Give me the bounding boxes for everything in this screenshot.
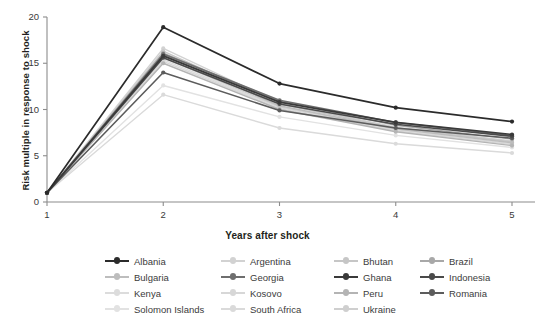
legend-swatch-icon xyxy=(334,255,358,267)
legend-label: Indonesia xyxy=(449,272,490,283)
series-line xyxy=(47,51,512,193)
series-indonesia xyxy=(45,56,514,195)
series-bulgaria xyxy=(45,53,514,195)
legend-row: BulgariaGeorgiaGhanaIndonesia xyxy=(105,269,535,285)
data-point xyxy=(277,100,281,104)
legend-item-argentina[interactable]: Argentina xyxy=(221,253,334,269)
y-tick-label: 0 xyxy=(13,196,39,207)
series-ghana xyxy=(45,54,514,195)
legend-label: Ukraine xyxy=(363,304,396,315)
legend-swatch-icon xyxy=(334,287,358,299)
data-point xyxy=(510,143,514,147)
legend-item-ghana[interactable]: Ghana xyxy=(334,269,420,285)
series-romania xyxy=(45,70,514,194)
y-tick-label: 10 xyxy=(13,104,39,115)
legend-label: Solomon Islands xyxy=(134,304,204,315)
y-tick-label: 5 xyxy=(13,150,39,161)
y-tick-label: 15 xyxy=(13,57,39,68)
data-point xyxy=(394,142,398,146)
data-point xyxy=(161,54,165,58)
legend-item-ukraine[interactable]: Ukraine xyxy=(334,301,420,317)
legend-label: Kenya xyxy=(134,288,161,299)
legend-item-indonesia[interactable]: Indonesia xyxy=(420,269,530,285)
legend-item-georgia[interactable]: Georgia xyxy=(221,269,334,285)
legend-item-kosovo[interactable]: Kosovo xyxy=(221,285,334,301)
legend-label: Georgia xyxy=(250,272,284,283)
legend-swatch-icon xyxy=(221,287,245,299)
series-line xyxy=(47,56,512,193)
series-line xyxy=(47,55,512,193)
legend-label: Peru xyxy=(363,288,383,299)
data-point xyxy=(394,126,398,130)
data-point xyxy=(161,83,165,87)
legend-label: Argentina xyxy=(250,256,291,267)
series-line xyxy=(47,53,512,193)
legend-swatch-icon xyxy=(105,255,129,267)
series-ukraine xyxy=(45,56,514,195)
legend-swatch-icon xyxy=(105,287,129,299)
legend-swatch-icon xyxy=(420,271,444,283)
data-point xyxy=(277,82,281,86)
data-point xyxy=(161,70,165,74)
data-point xyxy=(510,132,514,136)
data-point xyxy=(161,61,165,65)
legend-label: Brazil xyxy=(449,256,473,267)
legend-swatch-icon xyxy=(221,255,245,267)
series-argentina xyxy=(45,46,514,194)
legend-label: Bhutan xyxy=(363,256,393,267)
legend-swatch-icon xyxy=(420,287,444,299)
legend-label: South Africa xyxy=(250,304,301,315)
legend-swatch-icon xyxy=(420,255,444,267)
y-tick-label: 20 xyxy=(13,11,39,22)
legend-swatch-icon xyxy=(334,271,358,283)
legend-label: Ghana xyxy=(363,272,392,283)
legend-item-peru[interactable]: Peru xyxy=(334,285,420,301)
legend-label: Kosovo xyxy=(250,288,282,299)
legend-item-kenya[interactable]: Kenya xyxy=(105,285,221,301)
legend-item-romania[interactable]: Romania xyxy=(420,285,530,301)
legend-swatch-icon xyxy=(221,271,245,283)
data-point xyxy=(277,115,281,119)
legend-swatch-icon xyxy=(221,303,245,315)
chart-legend: AlbaniaArgentinaBhutanBrazilBulgariaGeor… xyxy=(105,253,535,321)
series-line xyxy=(47,54,512,193)
data-point xyxy=(161,25,165,29)
data-point xyxy=(394,120,398,124)
data-point xyxy=(161,93,165,97)
data-point xyxy=(45,191,49,195)
series-georgia xyxy=(45,52,514,195)
data-point xyxy=(394,106,398,110)
legend-item-bhutan[interactable]: Bhutan xyxy=(334,253,420,269)
data-point xyxy=(394,133,398,137)
legend-swatch-icon xyxy=(105,303,129,315)
legend-row: AlbaniaArgentinaBhutanBrazil xyxy=(105,253,535,269)
series-line xyxy=(47,73,512,193)
data-point xyxy=(510,151,514,155)
data-point xyxy=(510,119,514,123)
series-line xyxy=(47,58,512,193)
data-point xyxy=(277,126,281,130)
x-tick-label: 3 xyxy=(267,209,293,220)
legend-swatch-icon xyxy=(105,271,129,283)
legend-item-south-africa[interactable]: South Africa xyxy=(221,301,334,317)
x-tick-label: 2 xyxy=(150,209,176,220)
data-point xyxy=(394,130,398,134)
x-tick-label: 4 xyxy=(383,209,409,220)
legend-row: KenyaKosovoPeruRomania xyxy=(105,285,535,301)
legend-item-albania[interactable]: Albania xyxy=(105,253,221,269)
legend-row: Solomon IslandsSouth AfricaUkraine xyxy=(105,301,535,317)
legend-item-bulgaria[interactable]: Bulgaria xyxy=(105,269,221,285)
legend-item-brazil[interactable]: Brazil xyxy=(420,253,530,269)
data-point xyxy=(277,108,281,112)
legend-label: Albania xyxy=(134,256,166,267)
series-line xyxy=(47,58,512,193)
legend-label: Bulgaria xyxy=(134,272,169,283)
legend-label: Romania xyxy=(449,288,487,299)
chart-figure: Risk multiple in response to shock Years… xyxy=(0,0,535,324)
legend-item-solomon-islands[interactable]: Solomon Islands xyxy=(105,301,221,317)
legend-swatch-icon xyxy=(334,303,358,315)
x-tick-label: 1 xyxy=(34,209,60,220)
x-axis-title: Years after shock xyxy=(0,230,535,241)
x-tick-label: 5 xyxy=(499,209,525,220)
